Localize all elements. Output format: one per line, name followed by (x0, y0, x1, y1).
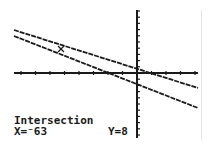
y-label: Y= (108, 125, 121, 138)
calculator-graph-screen: Intersection X=⁻63 Y=8 (0, 0, 211, 148)
line-1 (14, 30, 198, 88)
x-value: ⁻63 (27, 125, 47, 138)
x-coordinate: X=⁻63 (14, 126, 47, 137)
y-value: 8 (121, 125, 128, 138)
screen-edge (201, 10, 202, 140)
y-coordinate: Y=8 (108, 126, 128, 137)
x-label: X= (14, 125, 27, 138)
